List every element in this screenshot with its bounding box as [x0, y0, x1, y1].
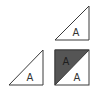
split-square-dark-label: A	[63, 56, 70, 67]
top-right-triangle: A	[55, 6, 89, 40]
top-right-triangle-label: A	[73, 27, 80, 38]
bottom-left-triangle-label: A	[27, 72, 34, 83]
diagram-canvas: A A A A	[0, 0, 97, 98]
split-square-light-label: A	[74, 72, 81, 83]
bottom-left-triangle: A	[9, 50, 43, 85]
split-square: A A	[55, 50, 89, 85]
